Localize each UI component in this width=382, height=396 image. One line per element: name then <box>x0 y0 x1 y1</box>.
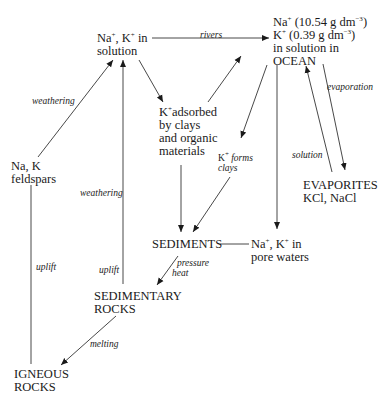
text: , K <box>270 237 285 251</box>
node-sediments: SEDIMENTS <box>152 238 222 251</box>
text: in <box>289 237 302 251</box>
label-k-forms-clays: K+ forms clays <box>218 153 253 173</box>
text: K <box>218 153 225 163</box>
node-solution: Na+, K+ in solution <box>97 32 148 58</box>
label-heat: heat <box>172 268 188 278</box>
node-feldspars: Na, K feldspars <box>11 160 56 186</box>
text: (0.39 g dm <box>286 28 344 42</box>
node-pore-waters: Na+, K+ in pore waters <box>251 238 309 264</box>
label-weathering: weathering <box>32 96 75 106</box>
arrow-kforms-sediments <box>193 177 230 232</box>
text: K <box>159 105 168 119</box>
text: forms <box>229 153 253 163</box>
arrow-adsorbed-ocean <box>208 56 241 102</box>
label-melting: melting <box>90 339 119 349</box>
text: ROCKS <box>14 381 69 394</box>
text: ) <box>363 15 367 29</box>
label-weathering: weathering <box>80 188 123 198</box>
sup: −3 <box>344 28 351 36</box>
label-evaporation: evaporation <box>327 82 373 92</box>
text: clays <box>218 163 253 173</box>
text: , K <box>116 31 131 45</box>
node-evaporites: EVAPORITES KCl, NaCl <box>303 179 378 205</box>
label-uplift: uplift <box>36 262 56 272</box>
text: adsorbed <box>172 105 217 119</box>
label-uplift: uplift <box>99 265 119 275</box>
text: feldspars <box>11 173 56 186</box>
text: in <box>135 31 148 45</box>
node-igneous-rocks: IGNEOUS ROCKS <box>14 368 69 394</box>
text: SEDIMENTS <box>152 238 222 251</box>
text: ROCKS <box>94 303 182 316</box>
node-adsorbed: K+adsorbed by clays and organic material… <box>159 106 217 158</box>
label-pressure: pressure <box>177 258 209 268</box>
text: KCl, NaCl <box>303 192 378 205</box>
sup: −3 <box>355 15 362 23</box>
arrow-ocean-kforms <box>241 65 267 138</box>
node-ocean: Na+ (10.54 g dm−3) K+ (0.39 g dm−3) in s… <box>273 16 367 68</box>
text: Na <box>273 15 288 29</box>
arrow-solution-adsorbed <box>139 60 163 102</box>
text: (10.54 g dm <box>292 15 356 29</box>
text: OCEAN <box>273 55 367 68</box>
text: solution <box>97 45 148 58</box>
text: K <box>273 28 282 42</box>
arrow-evaporation <box>323 64 345 170</box>
text: Na <box>251 237 266 251</box>
arrow-weathering-feldspars <box>38 60 113 157</box>
label-rivers: rivers <box>200 30 222 40</box>
text: ) <box>351 28 355 42</box>
label-solution: solution <box>292 150 323 160</box>
text: materials <box>159 145 217 158</box>
text: Na <box>97 31 112 45</box>
node-sedimentary-rocks: SEDIMENTARY ROCKS <box>94 290 182 316</box>
text: pore waters <box>251 251 309 264</box>
